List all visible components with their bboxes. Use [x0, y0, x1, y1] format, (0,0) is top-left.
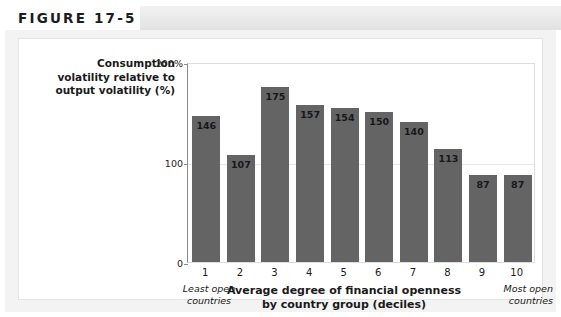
annotation-most-open: Most open countries	[467, 283, 553, 307]
x-axis-tick-label: 10	[503, 267, 531, 279]
bar: 140	[400, 122, 428, 262]
bar-column: 157	[296, 105, 324, 262]
bar: 113	[434, 149, 462, 262]
bar-value-label: 157	[296, 109, 324, 120]
chart-panel: Consumption volatility relative to outpu…	[18, 38, 543, 300]
annotation-least-open: Least open countries	[169, 283, 249, 307]
bar-value-label: 150	[365, 116, 393, 127]
bar-value-label: 140	[400, 126, 428, 137]
bar: 146	[192, 116, 220, 262]
x-axis-tick-label: 6	[364, 267, 392, 279]
bar-column: 154	[331, 108, 359, 262]
bar-column: 87	[469, 175, 497, 262]
annotation-most-open-line-1: Most open	[467, 283, 553, 295]
bar-column: 175	[261, 87, 289, 262]
x-axis-tick-label: 2	[226, 267, 254, 279]
x-axis-tick-label: 7	[399, 267, 427, 279]
bar: 150	[365, 112, 393, 262]
bar: 157	[296, 105, 324, 262]
figure-container: FIGURE 17-5 Consumption volatility relat…	[0, 0, 561, 317]
bar: 87	[504, 175, 532, 262]
figure-outer-frame: Consumption volatility relative to outpu…	[5, 30, 556, 312]
plot-wrapper: 200%1000 1461071751571541501401138787	[187, 63, 535, 263]
bar-value-label: 154	[331, 112, 359, 123]
y-axis-tick-mark	[184, 64, 188, 65]
bar-value-label: 175	[261, 91, 289, 102]
bar-column: 140	[400, 122, 428, 262]
bar-column: 146	[192, 116, 220, 262]
bar-column: 150	[365, 112, 393, 262]
annotation-least-open-line-2: countries	[169, 295, 249, 307]
figure-number-label: FIGURE 17-5	[18, 8, 137, 28]
x-axis-tick-label: 8	[433, 267, 461, 279]
bar-value-label: 87	[504, 179, 532, 190]
y-axis-title-line-3: output volatility (%)	[27, 84, 175, 98]
y-axis-title-line-1: Consumption	[27, 57, 175, 71]
bar: 107	[227, 155, 255, 262]
bar: 154	[331, 108, 359, 262]
bar-value-label: 87	[469, 179, 497, 190]
y-axis-title-line-2: volatility relative to	[27, 71, 175, 85]
annotation-most-open-line-2: countries	[467, 295, 553, 307]
annotation-least-open-line-1: Least open	[169, 283, 249, 295]
bar-series: 1461071751571541501401138787	[189, 63, 535, 262]
bar-value-label: 113	[434, 153, 462, 164]
bar-value-label: 146	[192, 120, 220, 131]
y-axis-tick-label: 200%	[156, 59, 183, 69]
x-axis-tick-label: 5	[330, 267, 358, 279]
bar-column: 113	[434, 149, 462, 262]
bar-value-label: 107	[227, 159, 255, 170]
x-axis-tick-label: 1	[191, 267, 219, 279]
y-axis-title: Consumption volatility relative to outpu…	[27, 57, 175, 98]
x-axis-tick-labels: 12345678910	[188, 267, 534, 279]
y-axis-tick-label: 100	[165, 159, 183, 169]
y-axis-tick-mark	[184, 264, 188, 265]
bar: 87	[469, 175, 497, 262]
bar: 175	[261, 87, 289, 262]
x-axis-tick-label: 9	[468, 267, 496, 279]
y-axis-tick-mark	[184, 164, 188, 165]
x-axis-tick-label: 3	[260, 267, 288, 279]
x-axis-tick-label: 4	[295, 267, 323, 279]
bar-column: 87	[504, 175, 532, 262]
bar-column: 107	[227, 155, 255, 262]
y-axis-tick-label: 0	[177, 259, 183, 269]
plot-area: 200%1000 1461071751571541501401138787	[187, 63, 535, 263]
